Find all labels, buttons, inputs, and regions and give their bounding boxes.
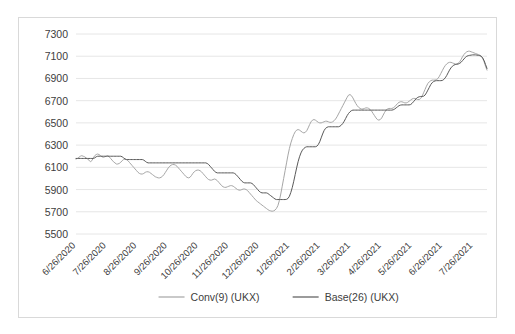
legend-item-label[interactable]: Conv(9) (UKX)	[191, 291, 260, 303]
data-series	[76, 51, 487, 211]
y-axis-tick-label: 6700	[45, 95, 69, 107]
y-axis-tick-label: 6300	[45, 139, 69, 151]
x-axis-tick-label: 7/26/2021	[437, 240, 475, 278]
y-axis-tick-labels: 7300710069006700650063006100590057005500	[45, 28, 69, 240]
x-axis-tick-labels: 6/26/20207/26/20208/26/20209/26/202010/2…	[40, 240, 475, 281]
y-axis-tick-label: 7100	[45, 50, 69, 62]
y-axis-tick-label: 5700	[45, 206, 69, 218]
line-chart: 7300710069006700650063006100590057005500…	[19, 18, 496, 317]
gridlines	[76, 34, 487, 234]
legend-item-label[interactable]: Base(26) (UKX)	[325, 291, 399, 303]
y-axis-tick-label: 6100	[45, 161, 69, 173]
series-line-conv-9-ukx	[76, 51, 487, 211]
chart-container: 7300710069006700650063006100590057005500…	[18, 17, 497, 318]
y-axis-tick-label: 6900	[45, 72, 69, 84]
series-line-base-26-ukx	[76, 55, 487, 200]
chart-legend: Conv(9) (UKX)Base(26) (UKX)	[159, 291, 399, 303]
y-axis-tick-label: 5500	[45, 228, 69, 240]
y-axis-tick-label: 7300	[45, 28, 69, 40]
y-axis-tick-label: 6500	[45, 117, 69, 129]
y-axis-tick-label: 5900	[45, 184, 69, 196]
